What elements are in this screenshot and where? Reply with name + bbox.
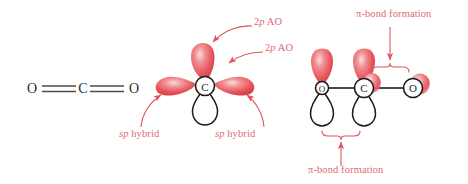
arrow-sp-hybrid-right: [247, 95, 264, 127]
pi-carbon-label: C: [360, 82, 367, 94]
label-2p-ao-upper: 2p AO: [254, 16, 282, 27]
lewis-double-bond-right: [90, 86, 124, 92]
pi-oxygen-right-label: O: [409, 82, 417, 94]
pi-oxygen-left-label: O: [319, 84, 326, 94]
arrow-sp-hybrid-left: [141, 95, 161, 127]
orbital-sp-hybrid-right: [214, 77, 254, 96]
hybrid-carbon-label: C: [201, 81, 208, 93]
co2-hybridization-figure: O C O C O C O 2p AO 2p AO sp hybrid sp h…: [0, 0, 468, 184]
arrow-2p-ao-lower: [229, 52, 263, 63]
lewis-carbon-label: C: [78, 81, 87, 96]
arrow-2p-ao-upper: [213, 26, 252, 42]
sp-hybrid-orbital-group: [141, 26, 264, 127]
figure-canvas: O C O C O C O: [0, 0, 468, 184]
label-pi-bond-formation-bottom: π-bond formation: [308, 164, 383, 175]
pi-bond-bracket-top: [371, 64, 409, 73]
pi-bond-bracket-bottom: [322, 131, 360, 140]
lewis-oxygen-left-label: O: [27, 81, 37, 96]
pi-orbital-o-left-down-white: [310, 90, 333, 126]
orbital-sp-hybrid-left: [156, 77, 196, 96]
pi-orbital-o-left-up-red: [311, 49, 333, 87]
lewis-double-bond-left: [42, 86, 76, 92]
label-pi-bond-formation-top: π-bond formation: [356, 8, 431, 19]
label-sp-hybrid-right: sp hybrid: [215, 128, 255, 139]
label-2p-ao-lower: 2p AO: [265, 42, 293, 53]
label-sp-hybrid-left: sp hybrid: [119, 128, 159, 139]
pi-bond-formation-group: [310, 27, 430, 166]
lewis-oxygen-right-label: O: [129, 81, 139, 96]
